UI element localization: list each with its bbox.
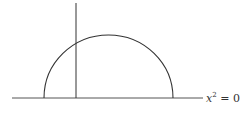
semicircle-arc xyxy=(44,35,173,98)
axis-label-x-squared-equals-zero: x2 = 0 xyxy=(206,92,240,104)
axis-label-rest: = 0 xyxy=(217,92,240,105)
